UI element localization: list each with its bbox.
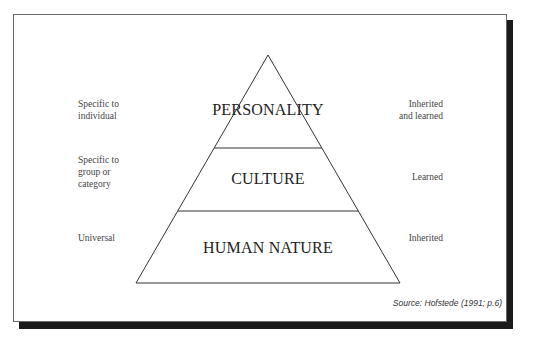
right-note-human-nature: Inherited <box>409 232 443 244</box>
right-note-culture: Learned <box>412 171 443 183</box>
left-note-personality: Specific to individual <box>78 98 119 122</box>
tier-culture: CULTURE <box>207 170 329 188</box>
source-citation: Source: Hofstede (1991; p.6) <box>393 298 502 308</box>
tier-personality: PERSONALITY <box>207 101 329 119</box>
left-note-human-nature: Universal <box>78 232 115 244</box>
right-note-personality: Inherited and learned <box>399 98 443 122</box>
left-note-culture: Specific to group or category <box>78 154 119 190</box>
tier-human-nature: HUMAN NATURE <box>168 239 368 257</box>
